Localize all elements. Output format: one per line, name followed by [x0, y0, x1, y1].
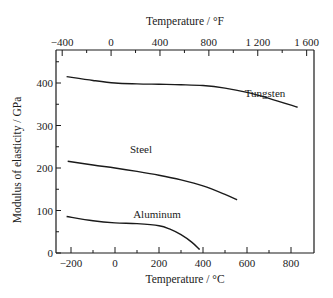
top-tick-label: 400: [152, 36, 169, 48]
x-tick-label: 200: [151, 257, 168, 269]
top-axis-title: Temperature / °F: [146, 15, 224, 28]
x-tick-label: 400: [195, 257, 212, 269]
curve-label-tungsten: Tungsten: [245, 87, 286, 99]
top-tick-label: 1 600: [294, 36, 319, 48]
y-axis-ticks: 0100200300400: [37, 62, 62, 259]
x-tick-label: 0: [112, 257, 118, 269]
y-axis-title: Modulus of elasticity / GPa: [11, 97, 24, 224]
top-tick-label: 800: [201, 36, 218, 48]
top-axis-ticks: −40004008001 2001 600: [51, 36, 320, 56]
y-tick-label: 0: [48, 247, 54, 259]
top-tick-label: 1 200: [245, 36, 270, 48]
curve-labels: TungstenSteelAluminum: [130, 87, 286, 220]
y-tick-label: 400: [37, 77, 54, 89]
curves: [67, 77, 298, 250]
y-tick-label: 100: [37, 205, 54, 217]
curve-label-aluminum: Aluminum: [133, 208, 181, 220]
top-tick-label: −400: [51, 36, 74, 48]
y-tick-label: 200: [37, 162, 54, 174]
x-tick-label: 600: [239, 257, 256, 269]
curve-aluminum: [67, 216, 200, 249]
x-axis-ticks: −2000200400600800: [60, 247, 300, 269]
curve-label-steel: Steel: [130, 143, 152, 155]
y-tick-label: 300: [37, 120, 54, 132]
x-axis-title: Temperature / °C: [145, 273, 224, 286]
x-tick-label: −200: [60, 257, 83, 269]
x-tick-label: 800: [283, 257, 300, 269]
curve-steel: [68, 161, 237, 200]
top-tick-label: 0: [108, 36, 114, 48]
modulus-temperature-chart: −2000200400600800 0100200300400 −4000400…: [0, 0, 333, 298]
